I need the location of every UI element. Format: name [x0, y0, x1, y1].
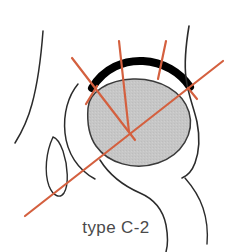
figure-canvas [0, 0, 232, 252]
figure-caption: type C-2 [0, 218, 232, 238]
femoral-head [88, 79, 191, 166]
hip-ultrasound-figure: type C-2 [0, 0, 232, 252]
